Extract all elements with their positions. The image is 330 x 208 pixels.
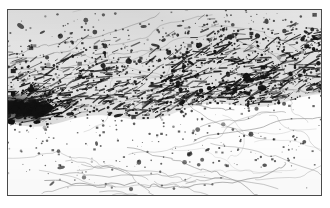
plate-border <box>7 9 322 196</box>
figure-page <box>0 0 330 208</box>
halftone-plate-image <box>8 10 321 195</box>
